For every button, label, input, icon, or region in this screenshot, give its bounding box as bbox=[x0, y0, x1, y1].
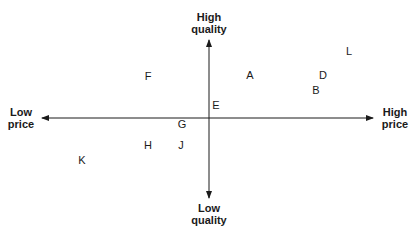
point-e: E bbox=[212, 100, 219, 111]
point-d: D bbox=[319, 70, 327, 81]
point-k: K bbox=[78, 155, 85, 166]
low-quality-label: Low quality bbox=[184, 202, 234, 226]
axes bbox=[0, 0, 417, 236]
point-b: B bbox=[312, 85, 319, 96]
low-price-label: Low price bbox=[5, 106, 37, 130]
point-f: F bbox=[145, 71, 152, 82]
high-quality-label: High quality bbox=[184, 11, 234, 35]
high-price-label: High price bbox=[378, 106, 412, 130]
point-l: L bbox=[346, 46, 352, 57]
point-h: H bbox=[144, 140, 152, 151]
point-a: A bbox=[246, 70, 253, 81]
point-j: J bbox=[178, 140, 184, 151]
point-g: G bbox=[178, 119, 187, 130]
